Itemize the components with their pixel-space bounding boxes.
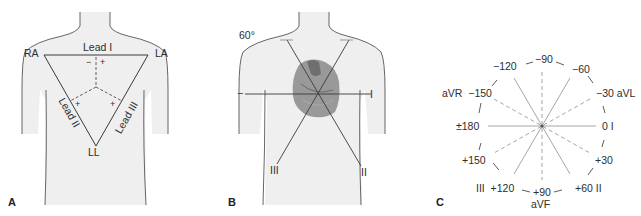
panel-letter-b: B (228, 196, 236, 208)
label-lead-ii: II (361, 167, 367, 178)
hexaxial-diagram (430, 0, 641, 216)
label-plus-150: +150 (462, 155, 486, 166)
label-lead-i: I (370, 89, 373, 100)
label-plus-30: +30 (595, 155, 613, 166)
label-lead-i: Lead I (83, 42, 112, 53)
label-plus-60-ii: +60 II (575, 183, 602, 194)
panel-c-hexaxial-reference: −90 −120 −60 aVR −150 −30 aVL ±180 0 I +… (430, 0, 641, 216)
label-lead-iii: III (270, 165, 279, 176)
panel-letter-c: C (436, 196, 444, 208)
label-plus-90: +90 (533, 187, 551, 198)
label-ra: RA (24, 48, 39, 59)
label-la: LA (155, 48, 168, 59)
label-minus-90: −90 (535, 54, 553, 65)
label-minus: − (86, 58, 91, 67)
label-ll: LL (88, 147, 100, 158)
label-zero-lead-i: 0 I (602, 121, 614, 132)
label-minus-60: −60 (572, 64, 590, 75)
label-iii-plus-120: III +120 (476, 183, 514, 194)
center-point (540, 124, 543, 127)
panel-a-einthoven-triangle: RA LA Lead I LL − + + + Lead II Lead III… (0, 0, 215, 216)
panel-letter-a: A (8, 196, 16, 208)
label-minus: − (237, 88, 243, 99)
panel-b-heart-leads: 60° − I II III B (215, 0, 430, 216)
label-avf: aVF (531, 199, 550, 210)
label-minus-30-avl: −30 aVL (596, 88, 635, 99)
label-plus: + (100, 58, 105, 67)
label-plus-minus-180: ±180 (456, 121, 479, 132)
label-minus-120: −120 (493, 61, 517, 72)
label-angle-60: 60° (239, 30, 255, 41)
torso-triangle-figure (0, 0, 215, 216)
label-avr-minus-150: aVR −150 (442, 88, 492, 99)
label-plus-lead-iii: + (110, 100, 115, 109)
label-plus-lead-ii: + (75, 100, 80, 109)
